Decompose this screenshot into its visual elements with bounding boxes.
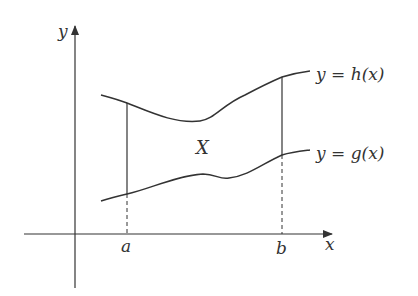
label-h: y = h(x)	[315, 64, 384, 84]
point-a-label: a	[121, 236, 131, 256]
x-axis-label: x	[325, 234, 335, 254]
label-g: y = g(x)	[315, 143, 384, 163]
region-between-curves-diagram: y x a b X y = h(x) y = g(x)	[0, 0, 418, 296]
region-label: X	[194, 137, 210, 158]
point-b-label: b	[276, 238, 287, 258]
diagram-svg: y x a b X y = h(x) y = g(x)	[0, 0, 418, 296]
y-axis-label: y	[57, 21, 68, 41]
curve-h	[101, 71, 310, 121]
